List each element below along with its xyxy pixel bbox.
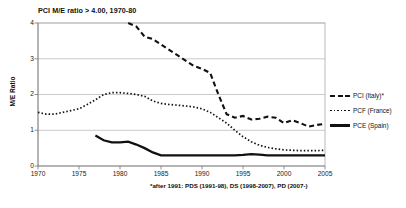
chart-footnote: *after 1991: PDS (1991-98), DS (1998-200…	[150, 182, 308, 189]
chart-container: PCI M/E ratio > 4.00, 1970-80 M/E Ratio …	[0, 0, 406, 208]
legend-item-france: PCF (France)	[330, 103, 404, 118]
legend-label-italy: PCI (Italy)*	[353, 92, 384, 99]
legend-item-italy: PCI (Italy)*	[330, 88, 404, 103]
chart-legend: PCI (Italy)* PCF (France) PCE (Spain)	[330, 88, 404, 133]
legend-label-france: PCF (France)	[353, 107, 392, 114]
series-path-spain	[95, 136, 325, 156]
series-path-italy	[128, 23, 325, 127]
legend-item-spain: PCE (Spain)	[330, 118, 404, 133]
legend-label-spain: PCE (Spain)	[353, 122, 389, 129]
legend-swatch-dashed-icon	[330, 92, 350, 100]
legend-swatch-solid-icon	[330, 122, 350, 130]
legend-swatch-dotted-icon	[330, 107, 350, 115]
